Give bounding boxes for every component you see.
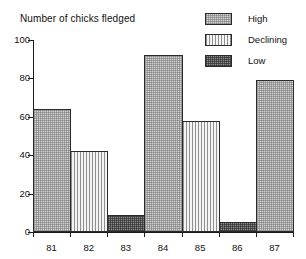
bar-83[interactable] [107,215,145,232]
x-tick-mark [107,232,108,237]
y-tick-label: 0 [25,226,30,237]
bar-85[interactable] [182,121,220,232]
x-tick-label-81: 81 [46,242,57,253]
x-tick-label-86: 86 [232,242,243,253]
x-tick-mark [219,232,220,237]
x-tick-label-87: 87 [269,242,280,253]
x-tick-label-83: 83 [121,242,132,253]
y-tick-label: 40 [19,149,30,160]
x-tick-mark [33,232,34,237]
x-tick-mark [256,232,257,237]
legend-swatch-high [205,13,232,25]
legend-label-high: High [248,13,268,24]
chart-title: Number of chicks fledged [20,13,135,24]
x-axis-line [33,232,294,233]
bar-87[interactable] [256,80,294,232]
x-tick-label-84: 84 [158,242,169,253]
y-tick-label: 60 [19,111,30,122]
x-tick-mark [70,232,71,237]
bar-82[interactable] [70,151,108,232]
plot-area: 02040608010081828384858687 [33,40,293,232]
x-tick-label-82: 82 [83,242,94,253]
x-tick-mark-end [293,232,294,237]
bar-86[interactable] [219,222,257,232]
x-tick-mark [182,232,183,237]
y-tick-label: 20 [19,188,30,199]
y-tick-label: 100 [14,34,30,45]
bar-81[interactable] [33,109,71,232]
y-tick-label: 80 [19,72,30,83]
bar-chart-figure: Number of chicks fledged HighDecliningLo… [0,0,306,259]
x-tick-mark [144,232,145,237]
legend-item-high[interactable]: High [205,8,305,29]
bar-84[interactable] [144,55,182,232]
x-tick-label-85: 85 [195,242,206,253]
